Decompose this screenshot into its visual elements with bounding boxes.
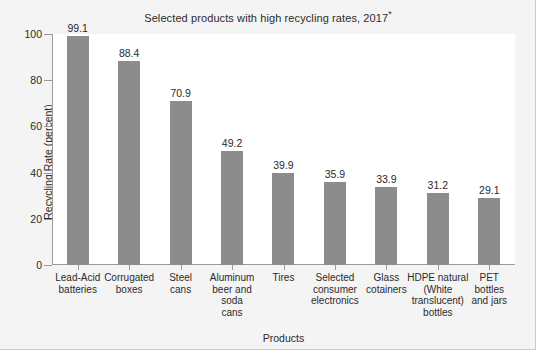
- bar-group[interactable]: 88.4: [103, 34, 154, 265]
- y-axis-tick-label: 60: [0, 120, 42, 132]
- y-axis-tick-label: 20: [0, 213, 42, 225]
- bar-group[interactable]: 35.9: [309, 34, 360, 265]
- bar-value-label: 88.4: [103, 47, 154, 59]
- x-axis-tick: [489, 265, 490, 270]
- bar-value-label: 33.9: [361, 173, 412, 185]
- bar[interactable]: [272, 173, 294, 265]
- y-axis-tick: [44, 265, 52, 266]
- x-axis-category-label: PETbottlesand jars: [458, 272, 520, 307]
- y-axis-tick: [44, 219, 52, 220]
- x-axis-tick: [335, 265, 336, 270]
- bar-group[interactable]: 31.2: [412, 34, 463, 265]
- bar[interactable]: [221, 151, 243, 265]
- x-axis-category-label-line: bottles: [458, 284, 520, 296]
- bar-value-label: 49.2: [206, 137, 257, 149]
- bar[interactable]: [324, 182, 346, 265]
- x-axis-tick: [284, 265, 285, 270]
- chart-figure: Selected products with high recycling ra…: [0, 0, 536, 350]
- x-axis-tick: [232, 265, 233, 270]
- bar-group[interactable]: 70.9: [155, 34, 206, 265]
- y-axis-tick-label: 40: [0, 167, 42, 179]
- x-axis-category-label-line: PET: [458, 272, 520, 284]
- bar[interactable]: [427, 193, 449, 265]
- chart-title-footnote-marker: *: [388, 9, 392, 19]
- bar[interactable]: [478, 198, 500, 265]
- bar-group[interactable]: 39.9: [258, 34, 309, 265]
- x-axis-tick: [181, 265, 182, 270]
- bar-value-label: 35.9: [309, 168, 360, 180]
- bar-group[interactable]: 49.2: [206, 34, 257, 265]
- x-axis-category-label-line: bottles: [407, 307, 469, 319]
- bar-group[interactable]: 29.1: [464, 34, 515, 265]
- bar[interactable]: [375, 187, 397, 265]
- bar-value-label: 99.1: [52, 22, 103, 34]
- bar-value-label: 31.2: [412, 179, 463, 191]
- x-axis-category-label-line: and jars: [458, 295, 520, 307]
- x-axis-category-label-line: cans: [201, 307, 263, 319]
- x-axis-title: Products: [52, 332, 515, 344]
- bar-value-label: 39.9: [258, 159, 309, 171]
- bar-value-label: 70.9: [155, 87, 206, 99]
- y-axis-tick: [44, 126, 52, 127]
- bar[interactable]: [67, 36, 89, 265]
- y-axis-tick: [44, 34, 52, 35]
- y-axis-tick-label: 80: [0, 74, 42, 86]
- x-axis-tick: [129, 265, 130, 270]
- bar-group[interactable]: 99.1: [52, 34, 103, 265]
- bar[interactable]: [170, 101, 192, 265]
- x-axis-tick: [438, 265, 439, 270]
- bar-value-label: 29.1: [464, 184, 515, 196]
- y-axis-tick: [44, 173, 52, 174]
- y-axis-tick: [44, 80, 52, 81]
- bar-group[interactable]: 33.9: [361, 34, 412, 265]
- x-axis-tick: [78, 265, 79, 270]
- x-axis-category-label-line: electronics: [304, 295, 366, 307]
- x-axis-category-label-line: beer and soda: [201, 284, 263, 307]
- x-axis-tick: [386, 265, 387, 270]
- y-axis-tick-label: 0: [0, 259, 42, 271]
- y-axis-tick-label: 100: [0, 28, 42, 40]
- bar[interactable]: [118, 61, 140, 265]
- chart-title-text: Selected products with high recycling ra…: [144, 12, 388, 24]
